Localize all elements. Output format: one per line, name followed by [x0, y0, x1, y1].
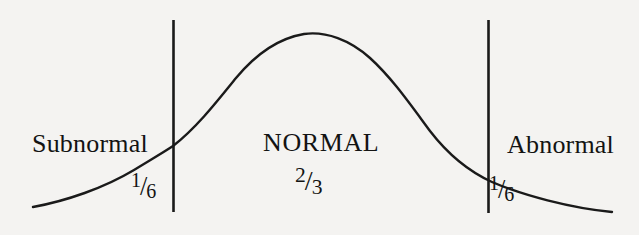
proportion-subnormal: 1/6 — [131, 170, 156, 201]
proportion-abnormal: 1/6 — [489, 173, 514, 204]
proportion-abnormal-denominator: 6 — [504, 183, 514, 205]
fraction-bar-icon: / — [140, 174, 147, 200]
bell-curve-path — [33, 33, 612, 212]
bell-curve-svg — [0, 0, 639, 235]
region-label-abnormal: Abnormal — [507, 132, 614, 158]
fraction-bar-icon: / — [305, 167, 313, 195]
proportion-normal-denominator: 3 — [312, 175, 323, 199]
proportion-subnormal-denominator: 6 — [146, 180, 156, 202]
fraction-bar-icon: / — [498, 177, 505, 203]
region-label-subnormal: Subnormal — [32, 131, 148, 157]
proportion-normal: 2/3 — [295, 165, 322, 198]
region-label-normal: NORMAL — [263, 130, 379, 156]
normal-distribution-figure: Subnormal NORMAL Abnormal 1/6 2/3 1/6 — [0, 0, 639, 235]
